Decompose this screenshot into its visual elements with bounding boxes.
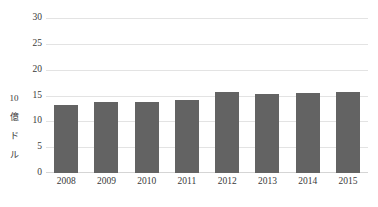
y-tick-label: 15 <box>22 91 42 101</box>
bar-2013[interactable] <box>255 94 279 173</box>
y-axis-title-line-1: 10 <box>10 93 19 103</box>
y-tick-label: 25 <box>22 39 42 49</box>
x-tick-label-2010: 2010 <box>127 176 167 187</box>
y-axis-title-line-3: ド <box>10 131 19 141</box>
bar-slot-2014 <box>288 18 328 173</box>
x-tick-label-2011: 2011 <box>167 176 207 187</box>
y-tick-label: 10 <box>22 116 42 126</box>
x-tick-label-2015: 2015 <box>328 176 368 187</box>
bar-slot-2013 <box>247 18 287 173</box>
x-axis-tick-labels: 2008 2009 2010 2011 2012 2013 2014 2015 <box>46 176 368 187</box>
y-tick-label: 0 <box>22 168 42 178</box>
bar-slot-2012 <box>207 18 247 173</box>
bar-series <box>46 18 368 173</box>
y-axis-title-line-2: 億 <box>10 112 19 122</box>
x-tick-label-2008: 2008 <box>46 176 86 187</box>
bar-2015[interactable] <box>336 92 360 173</box>
bar-2011[interactable] <box>175 100 199 173</box>
bar-2012[interactable] <box>215 92 239 173</box>
y-axis-tick-labels: 30 25 20 15 10 5 0 <box>20 18 42 173</box>
x-tick-label-2012: 2012 <box>207 176 247 187</box>
y-tick-label: 30 <box>22 13 42 23</box>
bar-2008[interactable] <box>54 105 78 173</box>
x-tick-label-2014: 2014 <box>288 176 328 187</box>
x-tick-label-2009: 2009 <box>86 176 126 187</box>
y-axis-title-line-4: ル <box>10 150 19 160</box>
bar-chart: 10 億 ド ル 30 25 20 15 10 5 0 <box>0 0 378 207</box>
bar-2014[interactable] <box>296 93 320 173</box>
bar-2009[interactable] <box>94 102 118 173</box>
bar-slot-2015 <box>328 18 368 173</box>
bar-slot-2010 <box>127 18 167 173</box>
bar-slot-2008 <box>46 18 86 173</box>
bar-slot-2009 <box>86 18 126 173</box>
plot-area <box>46 18 368 173</box>
bar-2010[interactable] <box>135 102 159 173</box>
x-tick-label-2013: 2013 <box>247 176 287 187</box>
bar-slot-2011 <box>167 18 207 173</box>
y-tick-label: 5 <box>22 142 42 152</box>
y-tick-label: 20 <box>22 65 42 75</box>
